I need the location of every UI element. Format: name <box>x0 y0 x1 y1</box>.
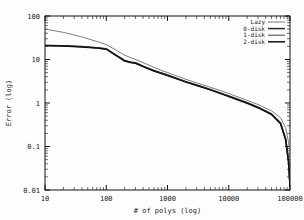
x-axis-label: # of polys (log) <box>134 207 201 215</box>
log-log-error-plot: 101001000100001000000.010.1110100# of po… <box>0 0 304 220</box>
x-tick-label: 10 <box>41 195 49 203</box>
y-tick-label: 0.01 <box>23 187 40 195</box>
series-group <box>45 29 290 186</box>
series-line-2-disk <box>45 45 290 186</box>
y-tick-label: 100 <box>27 13 40 21</box>
x-tick-label: 100000 <box>277 195 302 203</box>
series-line-1-disk <box>45 45 290 186</box>
series-line-0-disk <box>45 45 290 186</box>
x-tick-label: 1000 <box>159 195 176 203</box>
y-tick-label: 10 <box>32 56 40 64</box>
x-tick-label: 10000 <box>218 195 239 203</box>
y-axis-label: Error (log) <box>5 80 13 126</box>
chart-figure: 101001000100001000000.010.1110100# of po… <box>0 0 304 220</box>
legend-label-2-disk: 2-disk <box>243 38 265 45</box>
x-tick-label: 100 <box>100 195 113 203</box>
y-tick-label: 0.1 <box>27 143 40 151</box>
series-line-lazy <box>45 29 290 153</box>
y-tick-label: 1 <box>36 100 40 108</box>
